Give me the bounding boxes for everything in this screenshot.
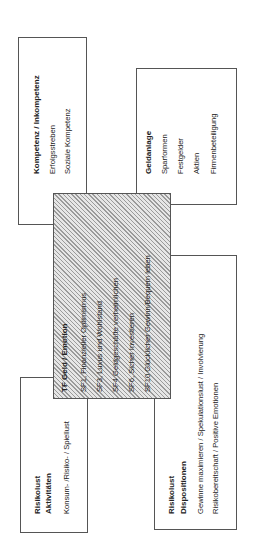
geldanlage-item: Festgelder <box>176 138 185 174</box>
aktivitaeten-item: Konsum- /Risiko- / Spiellust <box>62 421 71 514</box>
dispositionen-item: Gewinne maximieren / Spekulationslust / … <box>196 334 205 514</box>
center-item: SF1, Finanzieller Optimismus <box>79 293 88 392</box>
aktivitaeten-title-2: Aktivitäten <box>44 473 53 514</box>
center-item: SF10 Glücklicher Gewinn/Bequem leben <box>143 255 152 392</box>
kompetenz-item: Erfolgsstreben <box>48 125 57 174</box>
dispositionen-title-2: Dispositionen <box>179 461 188 514</box>
kompetenz-title: Kompetenz / Inkompetenz <box>32 75 41 174</box>
dispositionen-item: Risikobereitschaft / Positive Emotionen <box>211 383 220 514</box>
geldanlage-item: Aktien <box>192 153 201 174</box>
center-title: TF Geld / Emotion <box>60 324 69 392</box>
center-item: SF4 Geldgeschäfte verheimlichen <box>111 278 120 392</box>
kompetenz-item: Soziale Kompetenz <box>63 109 72 174</box>
geldanlage-item: Firmenbeteiligung <box>209 114 218 174</box>
aktivitaeten-title-1: Risikolust <box>33 476 42 514</box>
aktivitaeten-box <box>20 377 88 533</box>
center-item: SF3, Luxus und Wohlstand <box>95 301 104 392</box>
geldanlage-item: Sparformen <box>160 134 169 174</box>
center-item: SF6, Sicher Investieren <box>127 313 136 392</box>
geldanlage-title: Geldanlage <box>144 131 153 174</box>
dispositionen-title-1: Risikolust <box>167 476 176 514</box>
